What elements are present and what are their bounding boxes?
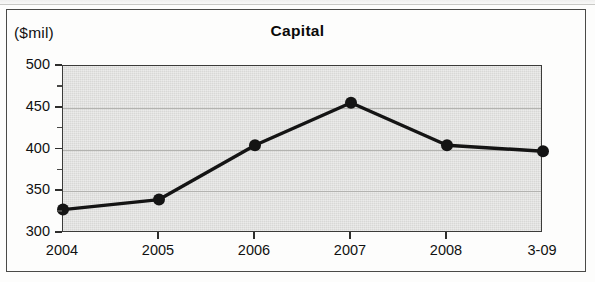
y-axis-tick-major (55, 148, 62, 150)
x-axis-tick (253, 232, 255, 239)
x-axis-tick-label: 2006 (219, 242, 289, 258)
plot-area (62, 65, 542, 232)
y-axis-tick-label: 350 (4, 181, 50, 197)
x-axis-tick-label: 2005 (123, 242, 193, 258)
x-axis-tick (349, 232, 351, 239)
x-axis-tick-label: 3-09 (507, 242, 577, 258)
x-axis-tick-label: 2007 (315, 242, 385, 258)
x-axis-tick-label: 2004 (27, 242, 97, 258)
y-axis-tick-minor (57, 127, 62, 128)
scan-edge (0, 0, 595, 5)
y-axis-tick-major (55, 189, 62, 191)
y-axis-tick-label: 300 (4, 223, 50, 239)
data-point-marker (249, 139, 261, 151)
chart-title: Capital (0, 22, 595, 40)
data-point-marker (345, 97, 357, 109)
data-point-marker (537, 145, 549, 157)
line-series-capital (63, 66, 543, 233)
y-axis-tick-label: 450 (4, 98, 50, 114)
y-axis-tick-major (55, 64, 62, 66)
x-axis-tick (445, 232, 447, 239)
x-axis-tick (157, 232, 159, 239)
y-axis-tick-label: 400 (4, 140, 50, 156)
y-axis-tick-minor (57, 85, 62, 86)
y-axis-tick-minor (57, 210, 62, 211)
data-point-marker (153, 194, 165, 206)
y-axis-tick-label: 500 (4, 56, 50, 72)
y-axis-tick-major (55, 231, 62, 233)
data-point-marker (441, 139, 453, 151)
y-axis-tick-major (55, 106, 62, 108)
x-axis-tick-label: 2008 (411, 242, 481, 258)
series-line (63, 103, 543, 210)
y-axis-tick-minor (57, 169, 62, 170)
